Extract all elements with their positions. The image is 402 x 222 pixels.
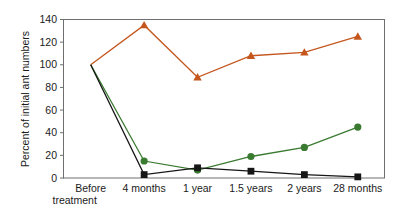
data-point-marker — [354, 123, 361, 130]
y-tick-label: 60 — [45, 104, 57, 116]
x-category-label: Before — [75, 182, 106, 194]
data-point-marker — [194, 164, 201, 171]
x-category-label-line2: treatment — [53, 194, 97, 206]
data-point-marker — [141, 157, 148, 164]
y-tick-label: 80 — [45, 81, 57, 93]
data-point-marker — [301, 171, 308, 178]
y-tick-label: 0 — [51, 172, 57, 184]
y-tick-label: 140 — [39, 13, 57, 25]
y-tick-label: 120 — [39, 36, 57, 48]
x-category-label: 2 years — [287, 182, 321, 194]
y-tick-label: 100 — [39, 58, 57, 70]
data-point-marker — [354, 173, 361, 180]
data-point-marker — [141, 171, 148, 178]
y-axis-label: Percent of initial ant numbers — [19, 31, 31, 167]
data-point-marker — [248, 168, 255, 175]
data-point-marker — [247, 153, 254, 160]
data-point-marker — [301, 144, 308, 151]
y-tick-label: 20 — [45, 149, 57, 161]
x-category-label: 28 months — [333, 182, 382, 194]
ant-numbers-line-chart: 020406080100120140 Percent of initial an… — [0, 0, 402, 222]
x-category-label: 1 year — [183, 182, 213, 194]
x-category-label: 1.5 years — [229, 182, 272, 194]
chart-canvas: 020406080100120140 Percent of initial an… — [0, 0, 402, 222]
y-tick-label: 40 — [45, 126, 57, 138]
x-category-label: 4 months — [123, 182, 166, 194]
